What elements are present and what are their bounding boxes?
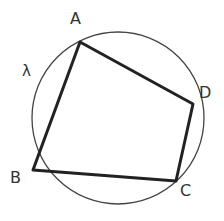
label-lambda: λ <box>22 62 31 80</box>
label-D: D <box>199 83 211 102</box>
quadrilateral-abcd <box>33 42 193 181</box>
circle-lambda <box>32 32 204 204</box>
cyclic-quadrilateral-diagram: A D C B λ <box>0 0 224 221</box>
label-A: A <box>70 9 81 28</box>
label-C: C <box>180 181 191 200</box>
label-B: B <box>10 168 21 187</box>
